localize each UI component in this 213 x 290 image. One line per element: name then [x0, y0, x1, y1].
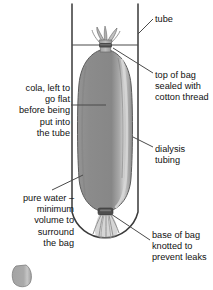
label-top-of-bag: top of bag sealed with cotton thread: [155, 70, 213, 104]
top-knot: [92, 26, 120, 52]
label-base-of-bag: base of bag knotted to prevent leaks: [152, 230, 213, 264]
leader-dialysis: [133, 137, 153, 147]
leader-tube: [138, 19, 153, 34]
stray-blob: [12, 265, 31, 287]
leader-pure-water: [52, 175, 83, 190]
dialysis-bag: [78, 49, 133, 212]
diagram-canvas: tube top of bag sealed with cotton threa…: [0, 0, 213, 290]
bottom-knot: [93, 208, 119, 239]
label-dialysis-tubing: dialysis tubing: [155, 144, 211, 166]
label-pure-water: pure water – minimum volume to surround …: [2, 193, 74, 249]
label-cola: cola, left to go flat before being put i…: [2, 83, 70, 139]
label-tube: tube: [155, 14, 211, 25]
